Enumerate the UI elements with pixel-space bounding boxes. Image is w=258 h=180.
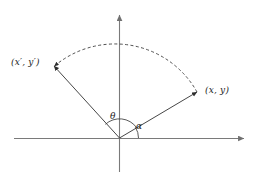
label-angle-theta: θ xyxy=(110,112,116,121)
rotation-diagram-figure: (x′, y′) (x, y) θ α xyxy=(0,0,258,180)
label-original-point: (x, y) xyxy=(205,86,229,95)
rotation-arc xyxy=(55,44,198,92)
label-rotated-point: (x′, y′) xyxy=(11,58,40,67)
ray-to-rotated-point xyxy=(54,66,120,138)
ray-to-original-point xyxy=(120,92,198,138)
label-angle-alpha: α xyxy=(136,122,142,131)
